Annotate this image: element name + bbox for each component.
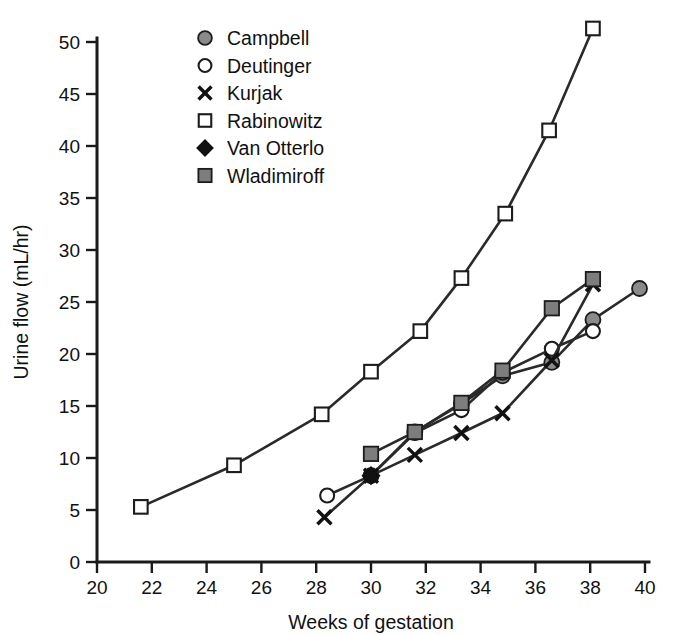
marker-open-square <box>455 271 469 285</box>
marker-cross <box>454 426 468 440</box>
marker-diamond <box>197 140 213 156</box>
y-tick-label: 35 <box>59 188 80 209</box>
urine-flow-chart: 05101520253035404550 2022242628303234363… <box>0 0 679 635</box>
marker-filled-square <box>408 425 422 439</box>
series-campbell <box>364 281 648 483</box>
legend-entry-campbell: Campbell <box>198 27 309 49</box>
marker-open-square <box>414 324 428 338</box>
marker-filled-square <box>454 396 468 410</box>
legend-label: Wladimiroff <box>227 165 325 187</box>
marker-open-square <box>586 22 600 36</box>
marker-open-circle <box>199 59 212 72</box>
marker-filled-circle <box>632 281 647 296</box>
y-tick-label: 40 <box>59 136 80 157</box>
x-tick-label: 26 <box>251 577 272 598</box>
legend-entry-deutinger: Deutinger <box>199 55 312 77</box>
y-tick-label: 20 <box>59 344 80 365</box>
legend-entry-rabinowitz: Rabinowitz <box>199 110 323 132</box>
marker-open-square <box>134 500 148 514</box>
series-path <box>141 28 593 506</box>
x-tick-label: 34 <box>470 577 492 598</box>
marker-cross <box>496 406 510 420</box>
marker-filled-square <box>495 363 509 377</box>
x-tick-label: 36 <box>525 577 546 598</box>
y-tick-label: 5 <box>69 500 80 521</box>
marker-open-square <box>199 114 212 127</box>
legend-entry-wladimiroff: Wladimiroff <box>198 165 324 187</box>
x-axis-title: Weeks of gestation <box>288 611 453 633</box>
marker-cross <box>408 448 422 462</box>
legend-label: Deutinger <box>227 55 312 77</box>
chart-canvas: 05101520253035404550 2022242628303234363… <box>0 0 679 635</box>
series-wladimiroff <box>364 272 600 461</box>
y-tick-label: 30 <box>59 240 80 261</box>
y-tick-label: 25 <box>59 292 80 313</box>
y-tick-label: 45 <box>59 84 80 105</box>
legend-label: Kurjak <box>227 82 283 104</box>
marker-cross <box>317 510 331 524</box>
marker-open-square <box>542 124 556 138</box>
marker-cross <box>199 87 212 100</box>
legend-label: Van Otterlo <box>227 137 324 159</box>
y-axis-ticks: 05101520253035404550 <box>59 32 97 573</box>
x-axis-ticks: 2022242628303234363840 <box>86 562 655 598</box>
x-tick-label: 32 <box>415 577 436 598</box>
y-tick-label: 0 <box>69 552 80 573</box>
legend-entry-kurjak: Kurjak <box>199 82 283 104</box>
x-tick-label: 22 <box>141 577 162 598</box>
marker-filled-square <box>198 169 211 182</box>
legend-label: Campbell <box>227 27 309 49</box>
marker-open-circle <box>320 488 334 502</box>
marker-open-circle <box>586 324 600 338</box>
marker-filled-circle <box>198 31 212 45</box>
marker-open-square <box>498 207 512 221</box>
marker-open-square <box>227 458 241 472</box>
x-tick-label: 24 <box>196 577 218 598</box>
marker-filled-square <box>364 447 378 461</box>
x-tick-label: 40 <box>634 577 655 598</box>
legend-label: Rabinowitz <box>227 110 322 132</box>
x-tick-label: 20 <box>86 577 107 598</box>
y-tick-label: 50 <box>59 32 80 53</box>
x-tick-label: 38 <box>580 577 601 598</box>
marker-filled-square <box>586 272 600 286</box>
x-tick-label: 30 <box>360 577 381 598</box>
x-tick-label: 28 <box>306 577 327 598</box>
marker-open-square <box>364 365 378 379</box>
y-tick-label: 10 <box>59 448 80 469</box>
y-axis-title: Urine flow (mL/hr) <box>10 225 32 380</box>
marker-open-square <box>315 408 329 422</box>
legend-entry-van-otterlo: Van Otterlo <box>197 137 324 159</box>
marker-filled-square <box>545 301 559 315</box>
chart-legend: CampbellDeutingerKurjakRabinowitzVan Ott… <box>197 27 325 187</box>
y-tick-label: 15 <box>59 396 80 417</box>
